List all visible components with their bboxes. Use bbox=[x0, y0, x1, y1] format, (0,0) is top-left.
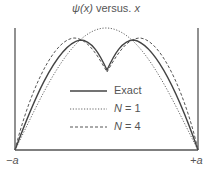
legend-n1-value: = 1 bbox=[122, 102, 141, 114]
x-tick-right: +a bbox=[190, 154, 203, 166]
legend-n4-label: N = 4 bbox=[114, 120, 141, 132]
legend-n1-label: N = 1 bbox=[114, 102, 141, 114]
legend-n4-var: N bbox=[114, 120, 122, 132]
series-n1-curve bbox=[15, 28, 198, 150]
legend-exact-label: Exact bbox=[114, 84, 142, 96]
legend-n4-value: = 4 bbox=[122, 120, 141, 132]
series-exact-curve bbox=[15, 40, 198, 150]
plot-area bbox=[0, 0, 212, 171]
x-tick-left: −a bbox=[6, 154, 19, 166]
legend-n1-var: N bbox=[114, 102, 122, 114]
